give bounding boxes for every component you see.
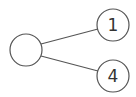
node-4-label: 4 (108, 66, 119, 86)
node-4: 4 (97, 60, 129, 92)
root-node-circle (10, 34, 42, 66)
node-1: 1 (97, 9, 129, 41)
node-root (10, 34, 42, 66)
edge-root-to-4 (41, 56, 98, 71)
tree-diagram: 1 4 (0, 0, 136, 97)
node-1-label: 1 (108, 15, 119, 35)
edge-root-to-1 (41, 29, 98, 44)
